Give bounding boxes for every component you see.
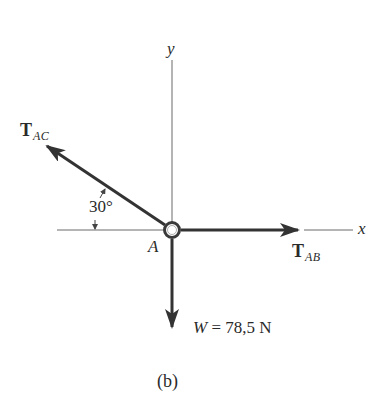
particle-A-inner-ring xyxy=(168,226,177,235)
angle-label: 30° xyxy=(89,198,113,215)
force-symbol: T xyxy=(292,241,304,261)
origin-label-A: A xyxy=(148,238,158,255)
force-subscript: AC xyxy=(33,129,49,143)
weight-label: W = 78,5 N xyxy=(193,318,272,337)
force-label-T-AB: TAB xyxy=(292,242,321,260)
figure-caption: (b) xyxy=(157,372,178,390)
free-body-diagram xyxy=(0,0,390,411)
force-label-W: W = 78,5 N xyxy=(193,319,272,336)
force-subscript: AB xyxy=(305,250,321,264)
force-label-T-AC: TAC xyxy=(20,121,49,139)
force-symbol: T xyxy=(20,120,32,140)
x-axis-label: x xyxy=(358,220,366,237)
y-axis-label: y xyxy=(167,40,175,57)
